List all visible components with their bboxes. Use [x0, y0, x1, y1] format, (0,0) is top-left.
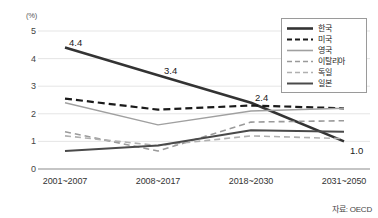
legend-line-swatch-icon [287, 79, 313, 88]
source-note: 자료: OECD [332, 203, 372, 214]
x-tick-label: 2018~2030 [229, 176, 273, 186]
data-label: 3.4 [164, 65, 177, 76]
legend-label: 이탈리아 [318, 57, 345, 66]
legend-line-swatch-icon [287, 35, 313, 44]
data-label: 1.0 [350, 145, 363, 156]
legend-line-swatch-icon [287, 46, 313, 55]
legend-label: 일본 [318, 79, 332, 88]
y-tick-label: 3 [22, 81, 36, 91]
legend-item-0[interactable]: 한국 [287, 23, 361, 34]
legend-item-2[interactable]: 영국 [287, 45, 361, 56]
data-label: 2.4 [255, 92, 268, 103]
legend-item-3[interactable]: 이탈리아 [287, 56, 361, 67]
line-chart-figure: (%) 012345 2001~20072008~20172018~203020… [0, 0, 378, 218]
legend-line-swatch-icon [287, 24, 313, 33]
y-tick-label: 2 [22, 109, 36, 119]
legend-label: 영국 [318, 46, 332, 55]
legend-line-swatch-icon [287, 68, 313, 77]
x-tick-label: 2008~2017 [136, 176, 180, 186]
chart-legend[interactable]: 한국미국영국이탈리아독일일본 [281, 18, 367, 93]
x-tick-label: 2001~2007 [43, 176, 87, 186]
legend-label: 독일 [318, 68, 332, 77]
legend-label: 미국 [318, 35, 332, 44]
y-tick-label: 1 [22, 136, 36, 146]
legend-line-swatch-icon [287, 57, 313, 66]
series-line-1 [65, 99, 344, 110]
y-tick-label: 5 [22, 26, 36, 36]
x-tick-label: 2031~2050 [322, 176, 366, 186]
y-tick-label: 4 [22, 54, 36, 64]
legend-item-5[interactable]: 일본 [287, 78, 361, 89]
legend-label: 한국 [318, 24, 332, 33]
y-tick-label: 0 [22, 164, 36, 174]
data-label: 4.4 [69, 37, 82, 48]
legend-item-4[interactable]: 독일 [287, 67, 361, 78]
legend-item-1[interactable]: 미국 [287, 34, 361, 45]
